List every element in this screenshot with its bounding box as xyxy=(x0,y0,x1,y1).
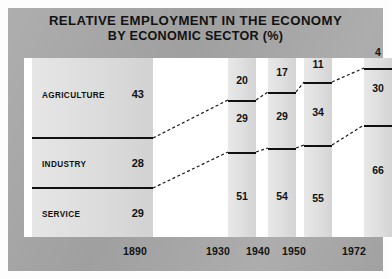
value-1972-service: 66 xyxy=(364,164,392,176)
chart-title-line1: RELATIVE EMPLOYMENT IN THE ECONOMY xyxy=(8,14,383,29)
column-1930: 20 29 51 xyxy=(228,58,256,237)
divider-1950-agri-industry xyxy=(304,82,332,84)
value-1950-service: 55 xyxy=(304,192,332,204)
column-1972: 4 30 66 xyxy=(364,58,392,237)
chart-title-line2: BY ECONOMIC SECTOR (%) xyxy=(8,29,383,44)
value-1950-industry: 34 xyxy=(304,106,332,118)
divider-1890-agri-industry xyxy=(32,137,153,139)
divider-1930-agri-industry xyxy=(228,100,256,102)
axis-label-1890: 1890 xyxy=(108,245,162,257)
column-1940: 17 29 54 xyxy=(268,58,296,237)
divider-1890-industry-service xyxy=(32,187,153,189)
plot-area: AGRICULTURE 43 INDUSTRY 28 SERVICE 29 20… xyxy=(24,58,372,237)
divider-1950-industry-service xyxy=(304,145,332,147)
sector-label-agriculture: AGRICULTURE xyxy=(42,91,105,100)
value-1940-industry: 29 xyxy=(268,110,296,122)
value-1890-service: 29 xyxy=(132,207,144,219)
value-1930-service: 51 xyxy=(228,190,256,202)
sector-label-industry: INDUSTRY xyxy=(42,160,86,169)
axis-label-1950: 1950 xyxy=(277,245,311,257)
column-1890: AGRICULTURE 43 INDUSTRY 28 SERVICE 29 xyxy=(32,58,153,237)
value-1950-agriculture: 11 xyxy=(304,58,332,70)
axis-label-1972: 1972 xyxy=(337,245,371,257)
value-1930-agriculture: 20 xyxy=(228,74,256,86)
value-1940-service: 54 xyxy=(268,190,296,202)
divider-1930-industry-service xyxy=(228,152,256,154)
value-1972-industry: 30 xyxy=(364,82,392,94)
divider-1972-industry-service xyxy=(364,125,392,127)
value-1972-agriculture: 4 xyxy=(364,46,392,58)
divider-1940-industry-service xyxy=(268,148,296,150)
divider-1940-agri-industry xyxy=(268,92,296,94)
value-1890-agriculture: 43 xyxy=(132,88,144,100)
value-1890-industry: 28 xyxy=(132,157,144,169)
axis-label-1930: 1930 xyxy=(201,245,235,257)
chart-title: RELATIVE EMPLOYMENT IN THE ECONOMY BY EC… xyxy=(8,14,383,43)
column-1950: 11 34 55 xyxy=(304,58,332,237)
value-1940-agriculture: 17 xyxy=(268,66,296,78)
sector-label-service: SERVICE xyxy=(42,210,80,219)
value-1930-industry: 29 xyxy=(228,112,256,124)
divider-1972-agri-industry xyxy=(364,68,392,70)
axis-label-1940: 1940 xyxy=(241,245,275,257)
